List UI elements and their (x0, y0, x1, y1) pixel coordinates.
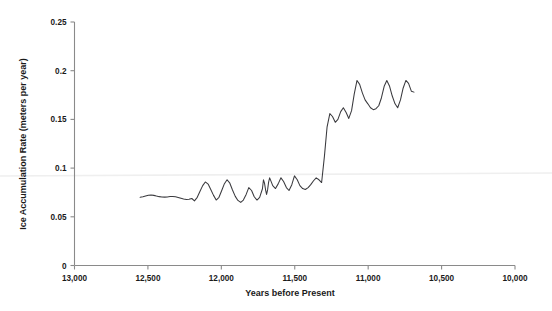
scan-artifact-line (0, 173, 552, 176)
x-tick-label: 10,500 (429, 274, 454, 283)
x-axis: 13,00012,50012,00011,50011,00010,50010,0… (62, 266, 528, 283)
accumulation-rate-chart: 00.050.10.150.20.25 13,00012,50012,00011… (0, 0, 552, 311)
chart-canvas: 00.050.10.150.20.25 13,00012,50012,00011… (0, 0, 552, 311)
y-tick-label: 0.2 (55, 67, 67, 76)
y-tick-label: 0 (62, 262, 67, 271)
y-axis-title: Ice Accumulation Rate (meters per year) (18, 58, 28, 230)
x-tick-label: 12,000 (209, 274, 234, 283)
x-tick-label: 10,000 (502, 274, 527, 283)
x-tick-label: 11,500 (282, 274, 307, 283)
y-tick-label: 0.1 (55, 164, 67, 173)
ice-accumulation-line (140, 80, 414, 202)
y-tick-label: 0.05 (51, 213, 67, 222)
y-tick-label: 0.25 (51, 18, 67, 27)
y-axis: 00.050.10.150.20.25 (51, 18, 75, 271)
x-tick-label: 11,000 (356, 274, 381, 283)
y-tick-label: 0.15 (51, 115, 67, 124)
x-tick-label: 12,500 (135, 274, 160, 283)
x-axis-title: Years before Present (245, 288, 335, 298)
x-tick-label: 13,000 (62, 274, 87, 283)
